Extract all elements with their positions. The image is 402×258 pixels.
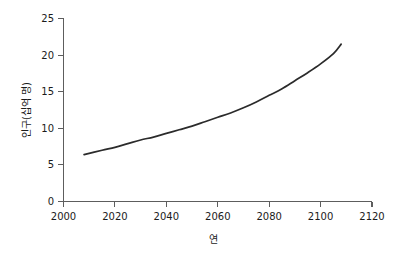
y-tick-label-25: 25 xyxy=(41,13,54,24)
x-tick-label-2020: 2020 xyxy=(102,211,127,222)
x-tick-label-2060: 2060 xyxy=(205,211,230,222)
y-axis-ticks xyxy=(58,19,64,202)
y-tick-label-15: 15 xyxy=(41,86,54,97)
chart-page: 0 5 10 15 20 25 2000 2020 2040 2060 2080… xyxy=(0,0,402,258)
population-curve xyxy=(84,44,341,155)
x-tick-label-2080: 2080 xyxy=(256,211,281,222)
x-axis-tick-labels: 2000 2020 2040 2060 2080 2100 2120 xyxy=(51,211,385,222)
x-axis-ticks xyxy=(64,202,373,208)
population-projection-chart: 0 5 10 15 20 25 2000 2020 2040 2060 2080… xyxy=(0,0,402,258)
x-tick-label-2040: 2040 xyxy=(154,211,179,222)
y-tick-label-20: 20 xyxy=(41,50,54,61)
y-tick-label-0: 0 xyxy=(48,196,54,207)
y-axis-tick-labels: 0 5 10 15 20 25 xyxy=(41,13,54,207)
x-tick-label-2100: 2100 xyxy=(308,211,333,222)
y-axis-title: 인구(십억 명) xyxy=(21,82,32,138)
x-axis-title: 연 xyxy=(209,234,218,245)
x-tick-label-2120: 2120 xyxy=(359,211,384,222)
x-tick-label-2000: 2000 xyxy=(51,211,76,222)
y-tick-label-5: 5 xyxy=(48,159,54,170)
y-tick-label-10: 10 xyxy=(41,123,54,134)
